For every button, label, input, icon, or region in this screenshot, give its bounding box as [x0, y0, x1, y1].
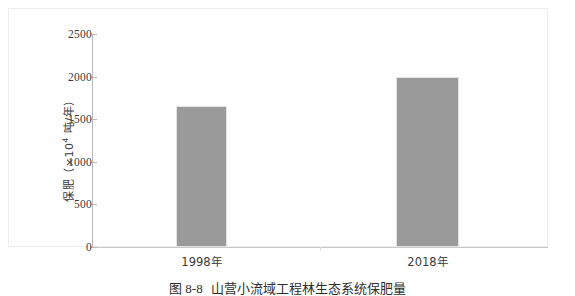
y-axis-line — [92, 34, 93, 247]
y-tick-label: 2000 — [68, 71, 92, 83]
x-axis-label-1998年: 1998年 — [181, 253, 221, 269]
y-axis-title: 保肥（×104 吨/年） — [60, 94, 76, 201]
y-tick-label: 1500 — [68, 113, 92, 125]
y-tick-label: 0 — [86, 241, 92, 253]
bar-1998年 — [176, 106, 227, 247]
y-tick-label: 1000 — [68, 156, 92, 168]
figure-caption-number: 图 8-8 — [169, 281, 203, 296]
y-tick-label: 500 — [74, 198, 92, 210]
x-axis-mid-tick — [320, 247, 321, 251]
y-tick-mark — [91, 247, 97, 248]
x-axis-label-2018年: 2018年 — [407, 253, 447, 269]
figure-caption: 图 8-8 山营小流域工程林生态系统保肥量 — [0, 278, 575, 296]
bar-2018年 — [396, 77, 459, 247]
plot-axis-area: 25002000150010005000 1998年2018年 — [92, 34, 548, 247]
y-axis-title-exponent: 4 — [61, 137, 70, 142]
y-axis-title-prefix: 保肥（×10 — [63, 142, 76, 201]
figure-container: 保肥（×104 吨/年） 25002000150010005000 1998年2… — [0, 0, 575, 296]
y-tick-label: 2500 — [68, 28, 92, 40]
figure-caption-text: 山营小流域工程林生态系统保肥量 — [211, 281, 406, 296]
